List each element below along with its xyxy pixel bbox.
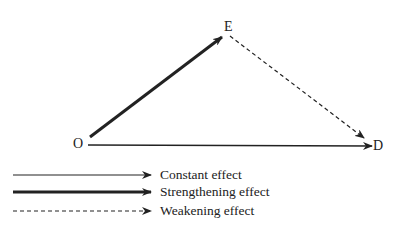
node-label-e: E — [224, 20, 233, 34]
node-label-d: D — [373, 139, 383, 153]
legend-label-strengthening: Strengthening effect — [160, 185, 270, 199]
legend-label-weakening: Weakening effect — [160, 204, 254, 218]
edge-o-d-constant — [88, 145, 372, 146]
edge-e-d-weakening — [230, 36, 364, 138]
diagram-canvas — [0, 0, 397, 236]
node-label-o: O — [73, 137, 83, 151]
edge-o-e-strengthening — [90, 37, 222, 137]
legend-label-constant: Constant effect — [160, 168, 242, 182]
